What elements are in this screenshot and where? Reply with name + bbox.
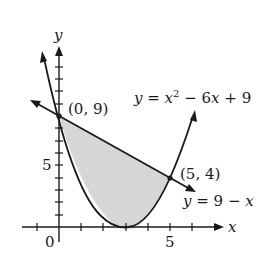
origin-label: 0 xyxy=(45,233,55,251)
point-5-4 xyxy=(167,175,172,180)
point-label-0-9: (0, 9) xyxy=(68,100,108,118)
x-tick-5-label: 5 xyxy=(165,233,175,251)
parabola-label: y = x2 − 6x + 9 xyxy=(133,88,251,107)
parabola-arrow-left-icon xyxy=(40,51,47,63)
graph: y x 0 5 5 (0, 9) (5, 4) y = x2 − 6x + 9 … xyxy=(0,0,269,272)
parabola-arrow-right-icon xyxy=(190,110,197,122)
point-label-5-4: (5, 4) xyxy=(180,165,220,183)
y-axis-arrow-icon xyxy=(55,46,63,56)
y-tick-5-label: 5 xyxy=(42,156,52,174)
line-label: y = 9 − x xyxy=(182,192,254,210)
y-axis-label: y xyxy=(53,26,63,44)
x-axis-label: x xyxy=(228,218,237,236)
x-axis-arrow-icon xyxy=(214,223,224,231)
point-0-9 xyxy=(56,113,61,118)
